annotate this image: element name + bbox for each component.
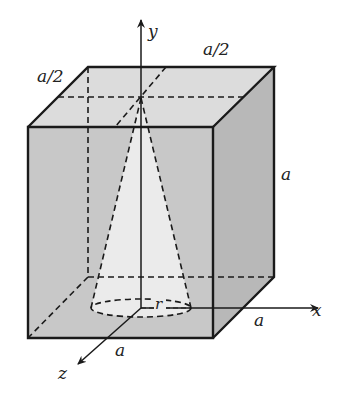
z-side-label: a — [115, 340, 125, 360]
z-axis-label: z — [57, 363, 68, 383]
radius-label: r — [155, 295, 163, 313]
y-axis-label: y — [147, 21, 158, 41]
height-label: a — [281, 164, 291, 184]
cube-cone-diagram: y x z a/2 a/2 a a a r — [0, 0, 345, 397]
top-right-half-label: a/2 — [203, 39, 230, 59]
x-axis-label: x — [312, 300, 322, 320]
x-side-label: a — [254, 310, 264, 330]
top-left-half-label: a/2 — [37, 66, 64, 86]
